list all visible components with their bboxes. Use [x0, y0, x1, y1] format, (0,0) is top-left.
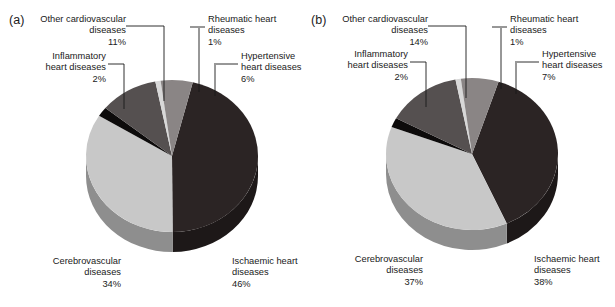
label-rheumatic-a: Rheumatic heart diseases 1%: [208, 14, 304, 48]
label-ischaemic-b: Ischaemic heart diseases 38%: [534, 254, 615, 288]
label-hypertensive-a: Hypertensive heart diseases 6%: [241, 51, 311, 85]
label-cerebrovascular-a: Cerebrovascular diseases 34%: [26, 256, 121, 290]
label-ischaemic-a: Ischaemic heart diseases 46%: [232, 256, 314, 290]
label-rheumatic-b: Rheumatic heart diseases 1%: [510, 14, 606, 48]
pie-panel-a: Ischaemic heart diseases 46%Cerebrovascu…: [0, 0, 307, 307]
figure-root: Ischaemic heart diseases 46%Cerebrovascu…: [0, 0, 615, 307]
label-other-cardiovascular-b: Other cardiovascular diseases 14%: [324, 14, 428, 48]
label-inflammatory-a: Inflammatory heart diseases 2%: [16, 51, 106, 85]
label-other-cardiovascular-a: Other cardiovascular diseases 11%: [22, 14, 126, 48]
label-cerebrovascular-b: Cerebrovascular diseases 37%: [328, 254, 423, 288]
pie-b-geometry: Ischaemic heart diseases 38%Cerebrovascu…: [386, 78, 558, 250]
pie-panel-b: Ischaemic heart diseases 38%Cerebrovascu…: [306, 0, 613, 307]
pie-a-geometry: Ischaemic heart diseases 46%Cerebrovascu…: [86, 80, 258, 252]
label-hypertensive-b: Hypertensive heart diseases 7%: [542, 49, 614, 83]
label-inflammatory-b: Inflammatory heart diseases 2%: [318, 49, 408, 83]
